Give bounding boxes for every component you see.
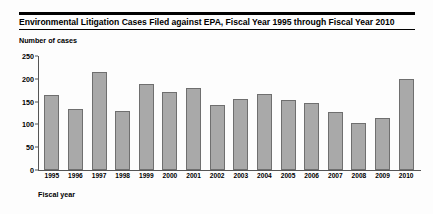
- x-tick-label: 2002: [205, 172, 229, 179]
- bar-slot: [394, 56, 418, 170]
- bar-series: [38, 56, 420, 170]
- bar-slot: [158, 56, 182, 170]
- x-tick-label: 2001: [182, 172, 206, 179]
- bar-slot: [87, 56, 111, 170]
- y-tick-label: 250: [22, 52, 34, 61]
- bar[interactable]: [68, 109, 83, 170]
- x-tick-label: 1996: [64, 172, 88, 179]
- x-tick-label: 2006: [300, 172, 324, 179]
- bar[interactable]: [92, 72, 107, 170]
- bar-slot: [135, 56, 159, 170]
- bar-slot: [347, 56, 371, 170]
- x-tick-label: 2000: [158, 172, 182, 179]
- bar[interactable]: [328, 112, 343, 170]
- x-axis-ticks: 1995199619971998199920002001200220032004…: [38, 172, 420, 179]
- y-tick-label: 200: [22, 74, 34, 83]
- y-tick-label: 100: [22, 120, 34, 129]
- y-axis-label: Number of cases: [19, 36, 77, 45]
- x-tick-label: 1997: [87, 172, 111, 179]
- x-tick-label: 2010: [394, 172, 418, 179]
- x-axis-line: [38, 170, 421, 171]
- bar[interactable]: [351, 123, 366, 170]
- title-bottom-rule: [19, 29, 415, 30]
- bar[interactable]: [233, 99, 248, 170]
- x-tick-label: 1995: [40, 172, 64, 179]
- bar-slot: [276, 56, 300, 170]
- bar[interactable]: [139, 84, 154, 170]
- bar[interactable]: [186, 88, 201, 170]
- x-tick-label: 2005: [276, 172, 300, 179]
- bar[interactable]: [281, 100, 296, 170]
- bar-slot: [40, 56, 64, 170]
- x-axis-label: Fiscal year: [38, 190, 75, 199]
- bar-slot: [371, 56, 395, 170]
- x-tick-label: 1998: [111, 172, 135, 179]
- bar-slot: [64, 56, 88, 170]
- bar-slot: [229, 56, 253, 170]
- x-tick-label: 2009: [371, 172, 395, 179]
- bar-slot: [300, 56, 324, 170]
- y-tick-label: 50: [26, 143, 34, 152]
- y-tick-label: 150: [22, 97, 34, 106]
- bar[interactable]: [44, 95, 59, 170]
- bar[interactable]: [257, 94, 272, 170]
- bar-slot: [205, 56, 229, 170]
- y-tick-label: 0: [30, 166, 34, 175]
- x-tick-label: 2004: [253, 172, 277, 179]
- bar-slot: [111, 56, 135, 170]
- bar[interactable]: [210, 105, 225, 170]
- x-tick-label: 2008: [347, 172, 371, 179]
- bar-slot: [324, 56, 348, 170]
- x-tick-label: 2007: [324, 172, 348, 179]
- bar-slot: [182, 56, 206, 170]
- bar[interactable]: [375, 118, 390, 170]
- x-tick-label: 1999: [135, 172, 159, 179]
- x-tick-label: 2003: [229, 172, 253, 179]
- title-top-rule: [19, 12, 415, 15]
- chart-figure: Environmental Litigation Cases Filed aga…: [0, 0, 433, 214]
- chart-title: Environmental Litigation Cases Filed aga…: [19, 17, 423, 27]
- plot-area: 050100150200250: [38, 56, 420, 170]
- bar[interactable]: [304, 103, 319, 170]
- bar-slot: [253, 56, 277, 170]
- bar[interactable]: [115, 111, 130, 170]
- bar[interactable]: [162, 92, 177, 170]
- bar[interactable]: [399, 79, 414, 170]
